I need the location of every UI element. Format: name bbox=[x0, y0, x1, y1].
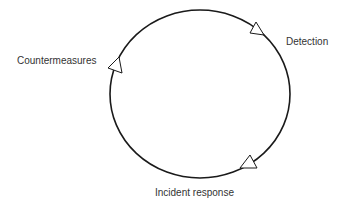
stage-label-detection: Detection bbox=[286, 36, 328, 47]
stage-label-incident-response: Incident response bbox=[155, 187, 234, 198]
stage-label-countermeasures: Countermeasures bbox=[17, 55, 96, 66]
cycle-diagram bbox=[0, 0, 348, 208]
arrow-detection-icon bbox=[250, 22, 264, 35]
arrow-countermeasures-icon bbox=[108, 57, 122, 73]
